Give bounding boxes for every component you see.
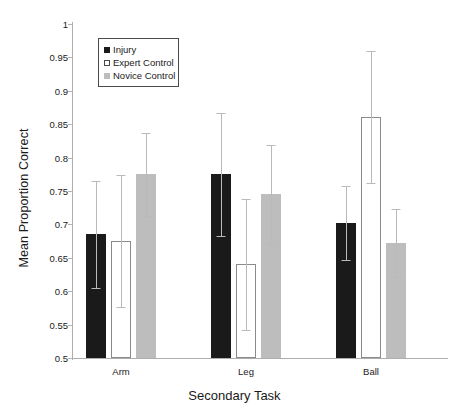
error-bar bbox=[346, 186, 347, 259]
error-bar-cap-lower bbox=[392, 277, 401, 278]
error-bar-cap-upper bbox=[217, 113, 226, 114]
x-axis-title: Secondary Task bbox=[0, 388, 469, 403]
y-axis-ticks: 0.50.550.60.650.70.750.80.850.90.951 bbox=[0, 0, 68, 418]
y-tick-label: 0.75 bbox=[50, 186, 69, 197]
y-tick-label: 0.65 bbox=[50, 252, 69, 263]
x-tick-label-ball: Ball bbox=[363, 366, 379, 377]
y-tick-label: 0.55 bbox=[50, 319, 69, 330]
legend-item-expert-control: Expert Control bbox=[104, 56, 173, 69]
x-axis-line bbox=[72, 358, 448, 359]
error-bar-cap-upper bbox=[267, 145, 276, 146]
error-bar bbox=[221, 113, 222, 236]
y-tick-label: 0.95 bbox=[50, 52, 69, 63]
error-bar bbox=[121, 175, 122, 307]
error-bar bbox=[271, 145, 272, 244]
y-tick-label: 0.6 bbox=[55, 286, 68, 297]
y-tick-label: 0.7 bbox=[55, 219, 68, 230]
error-bar bbox=[96, 181, 97, 288]
legend-swatch-injury-icon bbox=[104, 47, 110, 53]
error-bar-cap-upper bbox=[367, 51, 376, 52]
error-bar-cap-lower bbox=[367, 183, 376, 184]
error-bar-cap-lower bbox=[217, 236, 226, 237]
error-bar-cap-upper bbox=[242, 199, 251, 200]
x-tick-label-leg: Leg bbox=[238, 366, 254, 377]
error-bar-cap-upper bbox=[92, 181, 101, 182]
legend-item-novice-control: Novice Control bbox=[104, 69, 173, 82]
y-tick-label: 0.8 bbox=[55, 152, 68, 163]
error-bar bbox=[371, 51, 372, 183]
error-bar-cap-lower bbox=[242, 330, 251, 331]
y-axis-title: Mean Proportion Correct bbox=[17, 78, 31, 318]
y-tick-label: 0.5 bbox=[55, 353, 68, 364]
error-bar bbox=[396, 209, 397, 277]
legend-swatch-novice-control-icon bbox=[104, 73, 110, 79]
error-bar-cap-upper bbox=[342, 186, 351, 187]
legend-swatch-expert-control-icon bbox=[104, 60, 110, 66]
legend-label-injury: Injury bbox=[113, 44, 136, 55]
error-bar-cap-lower bbox=[142, 216, 151, 217]
error-bar-cap-upper bbox=[392, 209, 401, 210]
x-tick-label-arm: Arm bbox=[112, 366, 129, 377]
error-bar-cap-lower bbox=[92, 288, 101, 289]
error-bar bbox=[246, 199, 247, 330]
error-bar-cap-upper bbox=[117, 175, 126, 176]
error-bar-cap-lower bbox=[117, 307, 126, 308]
chart-legend: Injury Expert Control Novice Control bbox=[98, 38, 179, 87]
legend-item-injury: Injury bbox=[104, 43, 173, 56]
error-bar-cap-lower bbox=[267, 244, 276, 245]
y-tick-label: 0.85 bbox=[50, 119, 69, 130]
error-bar bbox=[146, 133, 147, 216]
error-bar-cap-lower bbox=[342, 260, 351, 261]
error-bar-cap-upper bbox=[142, 133, 151, 134]
y-tick-label: 0.9 bbox=[55, 85, 68, 96]
bar-chart: 0.50.550.60.650.70.750.80.850.90.951 Mea… bbox=[0, 0, 469, 418]
legend-label-expert-control: Expert Control bbox=[113, 57, 174, 68]
legend-label-novice-control: Novice Control bbox=[113, 70, 175, 81]
